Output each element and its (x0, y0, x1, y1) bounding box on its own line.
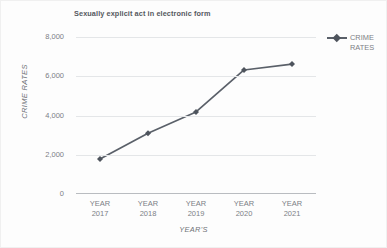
y-axis-tick-label: 2,000 (24, 150, 64, 159)
gridline (76, 37, 316, 38)
gridline (76, 116, 316, 117)
x-axis-line (76, 193, 316, 194)
y-axis-tick-label: 4,000 (24, 111, 64, 120)
x-axis-tick-label: YEAR2021 (264, 199, 320, 219)
x-axis-tick-label-value: 2021 (264, 209, 320, 219)
gridline (76, 76, 316, 77)
plot-area (76, 37, 316, 194)
chart-title: Sexually explicit act in electronic form (74, 9, 211, 18)
x-axis-title: YEAR'S (1, 225, 386, 234)
data-point-marker (289, 61, 295, 67)
chart-frame: Sexually explicit act in electronic form… (0, 0, 387, 248)
x-axis-tick-label-year: YEAR (264, 199, 320, 209)
legend-label-crime-rates: CRIME RATES (350, 33, 374, 52)
legend-label-line2: RATES (350, 43, 374, 53)
legend-label-line1: CRIME (350, 33, 374, 43)
y-axis-tick-label: 0 (24, 189, 64, 198)
legend: CRIME RATES (327, 33, 374, 52)
y-axis-tick-label: 8,000 (24, 32, 64, 41)
legend-marker-icon (327, 33, 347, 42)
y-axis-tick-label: 6,000 (24, 71, 64, 80)
gridline (76, 155, 316, 156)
